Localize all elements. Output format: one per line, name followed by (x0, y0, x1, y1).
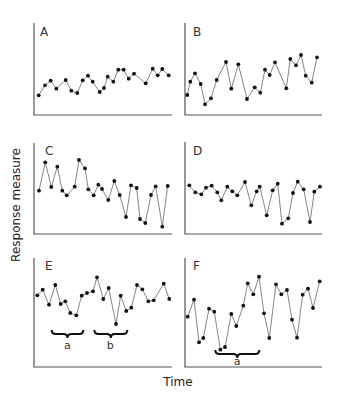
data-point (299, 53, 303, 57)
series-line (188, 277, 320, 350)
data-point (101, 297, 105, 301)
data-point (279, 292, 283, 296)
data-point (193, 71, 197, 75)
data-point (135, 186, 139, 190)
data-point (43, 83, 47, 87)
data-point (129, 306, 133, 310)
panel-letter: F (193, 259, 200, 273)
data-point (112, 179, 116, 183)
data-point (312, 190, 316, 194)
data-point (249, 203, 253, 207)
data-point (167, 297, 171, 301)
data-point (106, 75, 110, 79)
data-point (286, 216, 290, 220)
panel-b: B (185, 23, 322, 115)
data-point (102, 86, 106, 90)
data-point (251, 292, 255, 296)
data-point (85, 291, 89, 295)
brace-label: b (107, 339, 114, 352)
data-point (310, 81, 314, 85)
brace-label: a (234, 355, 241, 368)
data-point (318, 185, 322, 189)
data-point (215, 78, 219, 82)
data-point (35, 293, 39, 297)
data-point (193, 190, 197, 194)
data-point (308, 220, 312, 224)
brace-a (52, 330, 84, 338)
data-point (144, 81, 148, 85)
data-point (258, 91, 262, 95)
axes-f (185, 258, 322, 367)
data-point (243, 180, 247, 184)
data-point (290, 318, 294, 322)
data-point (304, 74, 308, 78)
data-point (59, 302, 63, 306)
data-point (225, 185, 229, 189)
data-point (132, 72, 136, 76)
data-point (53, 283, 57, 287)
data-point (188, 80, 192, 84)
data-point (91, 289, 95, 293)
data-point (265, 213, 269, 217)
data-point (111, 80, 115, 84)
data-point (60, 189, 64, 193)
data-point (204, 186, 208, 190)
data-point (100, 187, 104, 191)
data-point (92, 193, 96, 197)
data-point (268, 73, 272, 77)
data-point (186, 315, 190, 319)
data-point (55, 165, 59, 169)
data-point (138, 217, 142, 221)
data-point (81, 78, 85, 82)
data-point (86, 187, 90, 191)
series-line (189, 182, 320, 224)
data-point (152, 298, 156, 302)
data-point (229, 87, 233, 91)
data-point (267, 336, 271, 340)
data-point (291, 191, 295, 195)
data-point (43, 160, 47, 164)
data-point (230, 189, 234, 193)
data-point (234, 324, 238, 328)
data-point (47, 303, 51, 307)
data-point (187, 183, 191, 187)
data-point (284, 86, 288, 90)
data-point (114, 322, 118, 326)
data-point (197, 340, 201, 344)
data-point (75, 91, 79, 95)
data-point (54, 87, 58, 91)
series-line (187, 55, 317, 104)
data-point (37, 189, 41, 193)
panel-d: D (185, 142, 322, 234)
data-point (73, 185, 77, 189)
data-point (124, 309, 128, 313)
data-point (64, 78, 68, 82)
data-point (160, 67, 164, 71)
data-point (119, 294, 123, 298)
panel-letter: B (193, 25, 201, 39)
data-point (276, 182, 280, 186)
data-point (296, 180, 300, 184)
data-point (63, 299, 67, 303)
x-axis-title: Time (162, 375, 192, 389)
data-point (210, 184, 214, 188)
data-point (315, 55, 319, 59)
data-point (122, 68, 126, 72)
data-point (91, 80, 95, 84)
data-point (207, 307, 211, 311)
panel-letter: A (40, 25, 49, 39)
data-point (49, 185, 53, 189)
panel-c: C (34, 143, 172, 234)
data-point (135, 283, 139, 287)
data-point (37, 93, 41, 97)
data-point (140, 287, 144, 291)
data-point (318, 279, 322, 283)
panel-a: A (34, 23, 172, 115)
data-point (127, 77, 131, 81)
data-point (199, 82, 203, 86)
data-point (224, 60, 228, 64)
data-point (143, 221, 147, 225)
brace-b (94, 330, 127, 338)
data-point (65, 193, 69, 197)
data-point (107, 286, 111, 290)
